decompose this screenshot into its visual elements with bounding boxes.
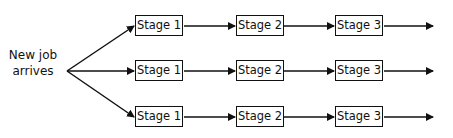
- row3-stage2-box: Stage 2: [236, 106, 284, 127]
- source-label-line1: New job: [0, 47, 66, 63]
- row1-stage2-box: Stage 2: [236, 15, 284, 36]
- connector-arrows: [0, 0, 453, 138]
- source-label: New job arrives: [0, 47, 66, 79]
- row3-stage1-box: Stage 1: [135, 106, 183, 127]
- row1-stage3-box: Stage 3: [335, 15, 383, 36]
- row2-stage2-box: Stage 2: [236, 60, 284, 81]
- row3-stage3-box: Stage 3: [335, 106, 383, 127]
- row2-stage3-box: Stage 3: [335, 60, 383, 81]
- row1-stage1-box: Stage 1: [135, 15, 183, 36]
- row2-stage1-box: Stage 1: [135, 60, 183, 81]
- source-label-line2: arrives: [0, 63, 66, 79]
